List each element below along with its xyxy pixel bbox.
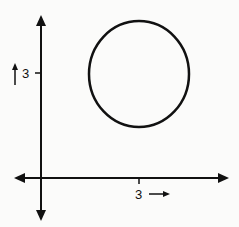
y-direction-arrow-icon (12, 63, 18, 70)
y-axis-down-arrow-icon (36, 210, 46, 221)
x-direction-arrow-icon (163, 191, 170, 197)
x-axis-right-arrow-icon (218, 173, 229, 183)
y-axis-up-arrow-icon (36, 15, 46, 26)
y-tick-label: 3 (22, 67, 29, 80)
x-tick-label: 3 (135, 188, 142, 201)
x-axis-left-arrow-icon (14, 173, 25, 183)
coordinate-diagram (0, 0, 239, 227)
circle (89, 21, 189, 127)
